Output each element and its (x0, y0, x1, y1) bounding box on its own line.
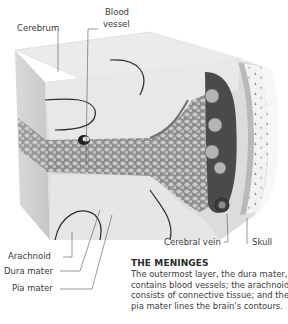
label-cerebral-vein: Cerebral vein (164, 238, 221, 248)
label-skull: Skull (252, 238, 272, 248)
label-dura-mater: Dura mater (4, 267, 53, 277)
label-cerebrum: Cerebrum (17, 24, 59, 34)
label-arachnoid: Arachnoid (8, 252, 51, 262)
caption: THE MENINGES The outermost layer, the du… (131, 258, 288, 311)
caption-body: The outermost layer, the dura mater, con… (131, 269, 288, 311)
label-blood-vessel-line2: vessel (103, 20, 130, 30)
label-blood-vessel-line1: Blood (105, 8, 129, 18)
label-pia-mater: Pia mater (12, 284, 53, 294)
caption-title: THE MENINGES (131, 258, 288, 268)
